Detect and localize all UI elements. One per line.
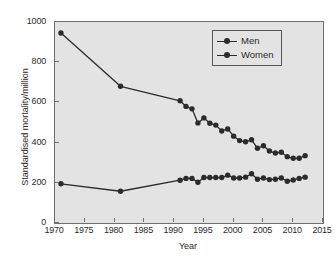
data-point — [237, 175, 242, 180]
mortality-line-chart: Standardised mortality/million 020040060… — [0, 0, 336, 264]
data-point — [118, 84, 123, 89]
data-point — [261, 143, 266, 148]
data-point — [118, 189, 123, 194]
x-tick-mark — [84, 218, 85, 222]
x-tick-label: 1985 — [134, 225, 153, 236]
x-tick-label: 2005 — [253, 225, 272, 236]
y-tick-label: 400 — [32, 137, 46, 146]
data-point — [279, 175, 284, 180]
x-tick-label: 2010 — [283, 225, 302, 236]
data-point — [177, 177, 182, 182]
y-tick-label: 1000 — [27, 17, 46, 26]
x-tick-label: 1990 — [163, 225, 182, 236]
x-tick-label: 1970 — [44, 225, 63, 236]
y-tick-label: 600 — [32, 97, 46, 106]
data-point — [285, 154, 290, 159]
data-point — [183, 176, 188, 181]
data-point — [177, 98, 182, 103]
data-point — [296, 176, 301, 181]
data-point — [255, 176, 260, 181]
y-tick-mark — [55, 182, 59, 183]
legend-item-men: Men — [217, 34, 274, 48]
x-tick-mark — [143, 218, 144, 222]
data-point — [231, 133, 236, 138]
data-point — [207, 121, 212, 126]
x-tick-label: 2015 — [312, 225, 331, 236]
y-tick-mark — [55, 101, 59, 102]
data-point — [273, 176, 278, 181]
data-point — [273, 150, 278, 155]
data-point — [249, 171, 254, 176]
y-tick-mark — [55, 222, 59, 223]
data-point — [189, 106, 194, 111]
y-tick-mark — [55, 61, 59, 62]
x-tick-mark — [173, 218, 174, 222]
x-tick-label: 2000 — [223, 225, 242, 236]
data-point — [219, 175, 224, 180]
x-tick-mark — [322, 218, 323, 222]
legend-label-women: Women — [241, 50, 274, 60]
data-point — [255, 146, 260, 151]
data-point — [183, 104, 188, 109]
data-point — [225, 126, 230, 131]
x-tick-mark — [233, 218, 234, 222]
x-axis-title: Year — [54, 241, 322, 251]
data-point — [58, 181, 63, 186]
data-point — [195, 120, 200, 125]
series-women — [58, 171, 308, 194]
y-tick-mark — [55, 21, 59, 22]
data-point — [261, 175, 266, 180]
data-point — [219, 128, 224, 133]
series-line — [61, 174, 305, 191]
x-tick-mark — [54, 218, 55, 222]
data-point — [267, 177, 272, 182]
y-tick-label: 800 — [32, 57, 46, 66]
women-marker-icon — [217, 50, 237, 60]
data-point — [243, 174, 248, 179]
x-tick-mark — [203, 218, 204, 222]
data-point — [291, 156, 296, 161]
x-tick-mark — [292, 218, 293, 222]
data-point — [201, 175, 206, 180]
series-overlay — [55, 22, 323, 223]
data-point — [213, 122, 218, 127]
data-point — [231, 175, 236, 180]
data-point — [267, 148, 272, 153]
data-point — [249, 137, 254, 142]
y-tick-label: 200 — [32, 177, 46, 186]
legend-label-men: Men — [241, 36, 259, 46]
data-point — [237, 138, 242, 143]
data-point — [291, 177, 296, 182]
data-point — [225, 172, 230, 177]
data-point — [243, 139, 248, 144]
y-tick-mark — [55, 142, 59, 143]
men-marker-icon — [217, 36, 237, 46]
plot-area — [54, 21, 324, 224]
legend-item-women: Women — [217, 48, 274, 62]
data-point — [279, 150, 284, 155]
data-point — [58, 30, 63, 35]
data-point — [207, 175, 212, 180]
x-tick-label: 1980 — [104, 225, 123, 236]
data-point — [189, 176, 194, 181]
x-tick-label: 1975 — [74, 225, 93, 236]
x-tick-mark — [262, 218, 263, 222]
x-axis-tick-labels: 1970197519801985199019952000200520102015 — [0, 225, 336, 239]
chart-legend: Men Women — [212, 30, 282, 66]
data-point — [296, 156, 301, 161]
x-tick-mark — [114, 218, 115, 222]
data-point — [213, 175, 218, 180]
x-tick-label: 1995 — [193, 225, 212, 236]
data-point — [302, 174, 307, 179]
data-point — [195, 180, 200, 185]
data-point — [302, 153, 307, 158]
data-point — [285, 178, 290, 183]
data-point — [201, 115, 206, 120]
